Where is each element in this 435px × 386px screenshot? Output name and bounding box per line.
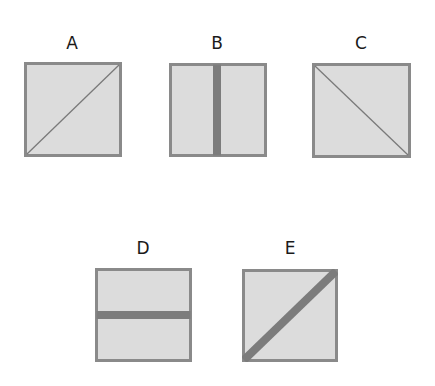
figure-c [312, 63, 411, 158]
square-diagonal-thin-reverse-icon [312, 63, 411, 158]
figure-b [169, 63, 267, 157]
label-a: A [52, 35, 92, 52]
square-diagonal-thin-icon [24, 62, 122, 157]
square-horizontal-bar-icon [95, 268, 192, 362]
label-b: B [197, 35, 237, 52]
square-vertical-bar-icon [169, 63, 267, 157]
label-d: D [123, 240, 163, 257]
figure-e [242, 269, 338, 362]
label-e: E [270, 240, 310, 257]
label-c: C [341, 35, 381, 52]
figure-a [24, 62, 122, 157]
square-diagonal-thick-icon [242, 269, 338, 362]
figure-d [95, 268, 192, 362]
